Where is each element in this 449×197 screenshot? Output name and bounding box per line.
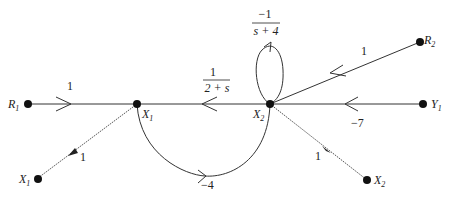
label-x2-out: X2	[373, 173, 385, 189]
node-x1	[133, 100, 141, 108]
label-x1-out: X1	[18, 172, 30, 188]
label-x2: X2	[252, 107, 264, 123]
label-r1: R1	[7, 97, 19, 113]
label-y1: Y1	[431, 97, 442, 113]
node-y1	[419, 100, 427, 108]
node-x2	[266, 100, 274, 108]
arrow-r2-x2	[330, 65, 346, 76]
gain-r1-x1: 1	[67, 79, 73, 93]
label-x1: X1	[141, 107, 153, 123]
node-x1-out	[34, 175, 42, 183]
gain-self-loop-den: s + 4	[254, 24, 279, 38]
gain-self-loop-num: −1	[259, 7, 272, 21]
edge-x1-x1out	[38, 104, 137, 178]
gain-x2-x2out: 1	[315, 149, 321, 163]
edge-self-loop-x2	[256, 46, 283, 104]
node-r1	[24, 100, 32, 108]
edge-x1-x2-feedback	[137, 104, 270, 176]
arrow-x2-x2out	[322, 146, 331, 153]
node-x2-out	[363, 176, 371, 184]
edge-r2-x2	[270, 42, 420, 104]
gain-r2-x2: 1	[361, 44, 367, 58]
signal-flow-graph: R1 X1 X2 Y1 R2 X1 X2 1 1 2 + s −1 s + 4 …	[0, 0, 449, 197]
gain-x2-x1-num: 1	[210, 65, 216, 79]
node-r2	[416, 38, 424, 46]
gain-y1-x2: −7	[351, 116, 364, 130]
gain-x1-x1out: 1	[80, 150, 86, 164]
gain-x1-x2: −4	[201, 178, 214, 192]
gain-x2-x1-den: 2 + s	[205, 81, 230, 95]
label-r2: R2	[423, 33, 435, 49]
